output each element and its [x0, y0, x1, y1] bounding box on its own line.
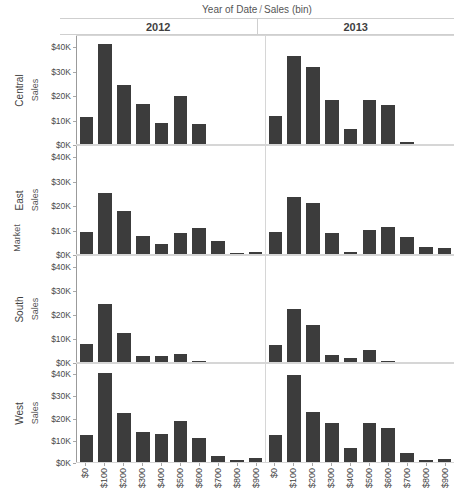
column-header-2013: 2013 — [257, 19, 454, 34]
bar[interactable] — [306, 67, 320, 144]
bar[interactable] — [211, 456, 225, 462]
bar[interactable] — [136, 432, 150, 462]
bar[interactable] — [381, 361, 395, 363]
bin-slot — [152, 364, 171, 462]
bar[interactable] — [136, 356, 150, 362]
bar[interactable] — [344, 252, 358, 254]
bar[interactable] — [438, 459, 452, 462]
bar[interactable] — [192, 228, 206, 254]
bar[interactable] — [344, 129, 358, 144]
bar[interactable] — [325, 233, 339, 254]
bar[interactable] — [363, 100, 377, 144]
bin-slot — [152, 146, 171, 254]
bar[interactable] — [98, 304, 112, 362]
bin-slot — [379, 36, 398, 144]
bar[interactable] — [136, 104, 150, 144]
row-header-label: South — [14, 296, 25, 322]
bar[interactable] — [136, 236, 150, 254]
bar[interactable] — [381, 428, 395, 462]
bar[interactable] — [287, 309, 301, 362]
bar[interactable] — [98, 44, 112, 144]
bar[interactable] — [117, 85, 131, 144]
bar[interactable] — [269, 435, 283, 462]
bar[interactable] — [192, 438, 206, 462]
bar-series — [77, 364, 265, 462]
y-axis-title-label: Sales — [30, 402, 40, 425]
bin-slot — [115, 364, 134, 462]
bar[interactable] — [363, 423, 377, 462]
bar[interactable] — [306, 325, 320, 362]
x-tick-mark — [123, 463, 124, 466]
y-tick-label: $30K — [51, 177, 71, 187]
bar[interactable] — [287, 197, 301, 254]
bin-slot — [285, 364, 304, 462]
bar[interactable] — [419, 247, 433, 254]
bar[interactable] — [117, 333, 131, 362]
bar[interactable] — [381, 105, 395, 144]
x-axis-panel-2012: $0$100$200$300$400$500$600$700$800$900 — [76, 463, 265, 497]
bar[interactable] — [344, 448, 358, 462]
bin-slot — [77, 256, 96, 362]
bar[interactable] — [363, 350, 377, 362]
bar[interactable] — [117, 211, 131, 254]
bar[interactable] — [174, 233, 188, 254]
bar[interactable] — [325, 100, 339, 144]
bar[interactable] — [174, 421, 188, 462]
bar[interactable] — [80, 435, 94, 462]
x-tick: $200 — [114, 463, 133, 497]
x-tick-mark — [369, 463, 370, 466]
bar[interactable] — [230, 460, 244, 462]
bar[interactable] — [98, 193, 112, 254]
bar[interactable] — [230, 253, 244, 255]
bar[interactable] — [155, 244, 169, 254]
bar[interactable] — [174, 354, 188, 362]
bar[interactable] — [269, 345, 283, 362]
bar[interactable] — [400, 237, 414, 254]
panel-central-2013 — [265, 36, 454, 144]
bar[interactable] — [155, 123, 169, 144]
bar[interactable] — [325, 423, 339, 462]
x-tick-mark — [256, 463, 257, 466]
bar[interactable] — [381, 227, 395, 254]
bar[interactable] — [269, 232, 283, 254]
bar[interactable] — [287, 375, 301, 462]
bar[interactable] — [306, 412, 320, 462]
bar[interactable] — [249, 458, 263, 462]
bar[interactable] — [211, 241, 225, 254]
y-axis-south: $0K$10K$20K$30K$40K — [42, 255, 76, 363]
bar[interactable] — [249, 252, 263, 254]
x-tick-label: $100 — [99, 468, 109, 488]
bin-slot — [77, 146, 96, 254]
bar[interactable] — [98, 373, 112, 462]
bar[interactable] — [80, 117, 94, 144]
bar[interactable] — [438, 248, 452, 254]
bar[interactable] — [287, 56, 301, 144]
bar[interactable] — [174, 96, 188, 144]
bar-chart-small-multiples: Year of Date/Sales (bin) 20122013 Market… — [0, 0, 454, 497]
x-tick-label: $100 — [288, 468, 298, 488]
bin-slot — [133, 364, 152, 462]
bar[interactable] — [155, 434, 169, 462]
bar[interactable] — [155, 356, 169, 362]
bar[interactable] — [400, 453, 414, 462]
bar[interactable] — [192, 124, 206, 144]
bar[interactable] — [80, 232, 94, 254]
bin-slot — [209, 256, 228, 362]
bin-slot — [115, 146, 134, 254]
bar[interactable] — [269, 116, 283, 144]
panel-south-2013 — [265, 256, 454, 362]
bar[interactable] — [325, 355, 339, 362]
bar[interactable] — [80, 344, 94, 362]
bar[interactable] — [306, 203, 320, 254]
bar[interactable] — [117, 413, 131, 462]
y-tick-label: $20K — [51, 201, 71, 211]
bar[interactable] — [400, 142, 414, 144]
x-tick-mark — [237, 463, 238, 466]
x-tick-label: $500 — [175, 468, 185, 488]
x-tick-label: $600 — [383, 468, 393, 488]
x-tick: $500 — [171, 463, 190, 497]
bar[interactable] — [192, 361, 206, 363]
bar[interactable] — [419, 460, 433, 462]
bar[interactable] — [363, 230, 377, 254]
bar[interactable] — [344, 358, 358, 362]
